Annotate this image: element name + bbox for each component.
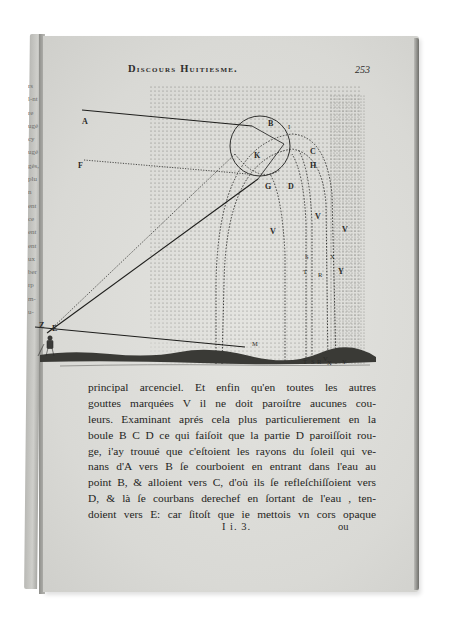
- label-H: H: [310, 161, 317, 170]
- label-X: X: [330, 253, 335, 260]
- label-I: I: [288, 123, 290, 130]
- text-line: leurs. Examinant aprés cela plus particu…: [88, 412, 376, 428]
- ground-label-X: X: [327, 359, 332, 366]
- label-S: S: [305, 253, 309, 260]
- text-line: D, & là ſe courbans derechef en ſortant …: [88, 491, 376, 507]
- label-M: M: [252, 340, 258, 347]
- label-E: E: [52, 324, 57, 333]
- label-A: A: [82, 117, 88, 126]
- text-line: nans d'A vers B ſe courboient en entrant…: [88, 459, 376, 475]
- stippled-sky: [150, 84, 360, 364]
- text-line: point B, & alloient vers C, d'où ils ſe …: [88, 475, 376, 491]
- book-scan: rs l-nt re ugé cy ugé gés, plu n ent ce …: [0, 0, 470, 627]
- page-fore-edge: [414, 38, 419, 590]
- label-V-outer: V: [342, 225, 348, 234]
- label-V-inner: V: [270, 227, 276, 236]
- label-R: R: [318, 271, 323, 278]
- ground-label-Y: Y: [342, 358, 347, 365]
- label-T: T: [303, 268, 307, 275]
- label-G: G: [265, 182, 271, 191]
- label-V-bow: V: [315, 212, 321, 221]
- ground-label-R: R: [317, 358, 322, 365]
- ground-label-S: S: [311, 358, 315, 365]
- rainbow-diagram: A B I C K H F G D V V V S X T R Y Z E M …: [30, 74, 390, 384]
- running-head: Discours Huitiesme.: [128, 63, 238, 74]
- text-line: principal arcenciel. Et enfin qu'en tout…: [88, 380, 376, 396]
- signature-mark: I i. 3.: [222, 521, 251, 532]
- label-C: C: [310, 147, 316, 156]
- ground-label-T: T: [303, 358, 307, 365]
- catchword: ou: [338, 521, 349, 532]
- label-F: F: [78, 161, 83, 170]
- label-B: B: [268, 119, 274, 128]
- text-line: ge, i'ay trouué que c'eſtoient les rayon…: [88, 444, 376, 460]
- label-K: K: [254, 151, 261, 160]
- label-D: D: [288, 182, 294, 191]
- text-line: boule B C D ce qui faiſoit que la partie…: [88, 428, 376, 444]
- observer-figure: [38, 336, 54, 356]
- label-Y: Y: [338, 267, 344, 276]
- text-line: gouttes marquées V il ne doit paroiſtre …: [88, 396, 376, 412]
- label-Z: Z: [39, 321, 44, 330]
- body-text: principal arcenciel. Et enfin qu'en tout…: [88, 380, 376, 523]
